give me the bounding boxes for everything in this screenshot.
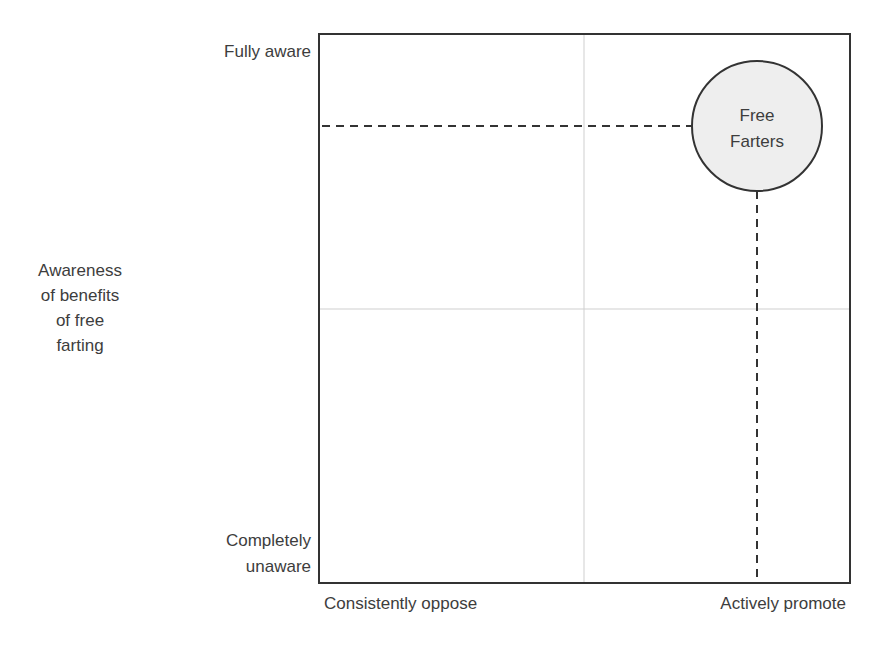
- y-axis-title-line-3: of free: [20, 308, 140, 333]
- y-bottom-label-line-2: unaware: [150, 554, 311, 580]
- y-axis-title: Awareness of benefits of free farting: [20, 258, 140, 358]
- bubble-label-line-1: Free: [707, 103, 807, 129]
- y-axis-title-line-1: Awareness: [20, 258, 140, 283]
- y-top-label: Fully aware: [150, 42, 311, 62]
- y-axis-title-line-4: farting: [20, 333, 140, 358]
- bubble-label: Free Farters: [707, 103, 807, 155]
- x-right-label: Actively promote: [640, 594, 846, 614]
- y-axis-title-line-2: of benefits: [20, 283, 140, 308]
- y-bottom-label-line-1: Completely: [150, 528, 311, 554]
- bubble-label-line-2: Farters: [707, 129, 807, 155]
- x-left-label: Consistently oppose: [324, 594, 477, 614]
- y-bottom-label: Completely unaware: [150, 528, 311, 580]
